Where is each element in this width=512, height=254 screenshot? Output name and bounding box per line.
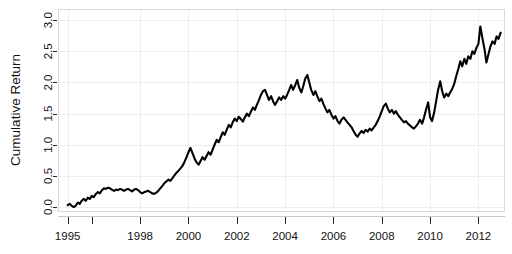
y-tick-label: 1.5 xyxy=(42,106,54,122)
y-tick-label: 1.0 xyxy=(42,137,54,153)
x-tick-label: 2006 xyxy=(321,230,347,242)
x-tick-label: 2010 xyxy=(417,230,443,242)
cumulative-return-line-chart: 0.00.51.01.52.02.53.0 199519982000200220… xyxy=(0,0,512,254)
y-tick-label: 2.5 xyxy=(42,43,54,59)
x-tick-label: 2004 xyxy=(272,230,298,242)
y-tick-label: 0.0 xyxy=(42,199,54,215)
x-tick-label: 1998 xyxy=(127,230,153,242)
figure-background xyxy=(0,0,512,254)
y-tick-label: 3.0 xyxy=(42,12,54,28)
x-tick-label: 2000 xyxy=(176,230,202,242)
x-tick-label: 2002 xyxy=(224,230,250,242)
x-tick-label: 2012 xyxy=(466,230,492,242)
y-axis-title: Cumulative Return xyxy=(8,54,23,166)
x-tick-label: 2008 xyxy=(369,230,395,242)
y-tick-label: 0.5 xyxy=(42,168,54,184)
x-tick-label: 1995 xyxy=(55,230,81,242)
chart-figure: 0.00.51.01.52.02.53.0 199519982000200220… xyxy=(0,0,512,254)
y-tick-label: 2.0 xyxy=(42,74,54,90)
